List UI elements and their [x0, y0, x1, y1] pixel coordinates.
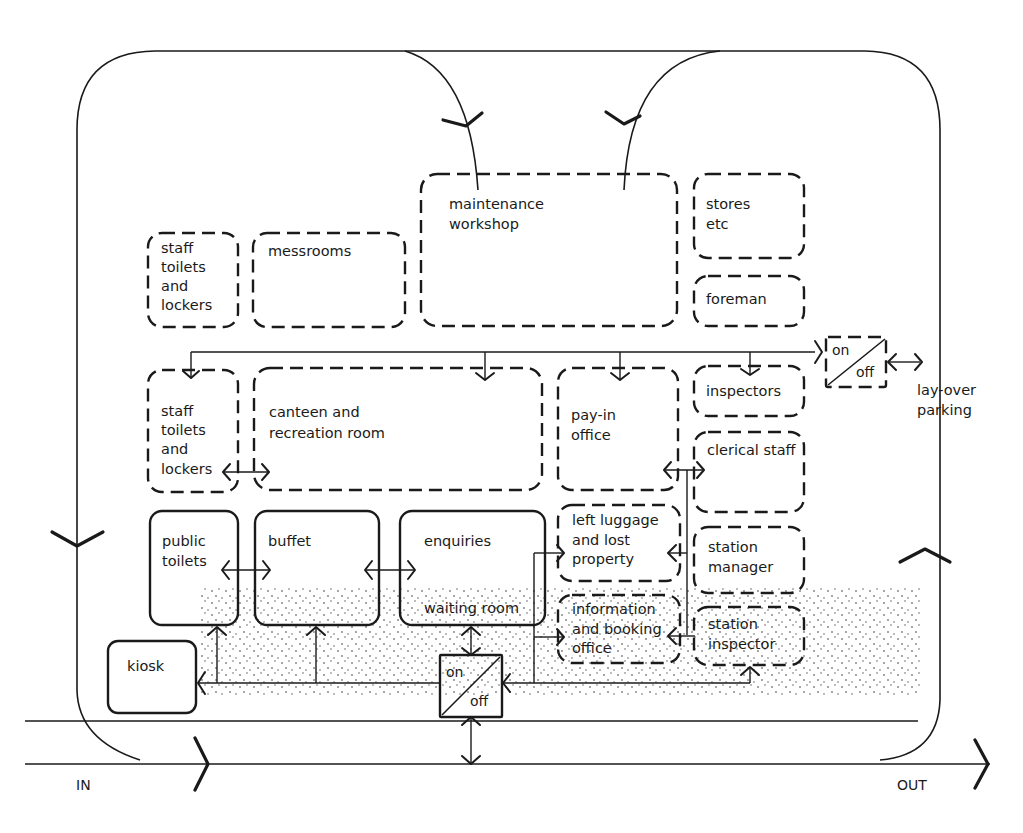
- svg-text:stafftoiletsandlockers: stafftoiletsandlockers: [161, 240, 212, 313]
- arrow-right-icon: [815, 341, 822, 363]
- room-messrooms: messrooms: [253, 233, 405, 327]
- svg-text:on: on: [832, 342, 849, 358]
- svg-text:storesetc: storesetc: [706, 196, 750, 232]
- out-label: OUT: [897, 777, 927, 793]
- staff-on-off-switch: on off: [826, 337, 886, 387]
- svg-text:buffet: buffet: [268, 533, 311, 549]
- room-maintenance-workshop: maintenanceworkshop: [421, 174, 677, 326]
- room-kiosk: kiosk: [108, 641, 196, 713]
- svg-text:enquiries: enquiries: [424, 533, 491, 549]
- svg-text:stationmanager: stationmanager: [708, 539, 773, 575]
- svg-text:on: on: [446, 664, 463, 680]
- svg-text:foreman: foreman: [706, 291, 767, 307]
- svg-text:off: off: [470, 693, 489, 709]
- svg-text:waiting room: waiting room: [424, 600, 519, 616]
- room-stores: storesetc: [694, 174, 804, 258]
- room-canteen: canteen andrecreation room: [254, 368, 542, 490]
- svg-text:inspectors: inspectors: [706, 383, 781, 399]
- room-foreman: foreman: [694, 276, 804, 326]
- svg-text:messrooms: messrooms: [268, 243, 351, 259]
- room-clerical-staff: clerical staff: [694, 432, 804, 512]
- room-pay-in-office: pay-inoffice: [558, 368, 678, 490]
- room-left-luggage: left luggageand lostproperty: [558, 505, 680, 581]
- workshop-route-right: [624, 51, 720, 190]
- svg-text:off: off: [856, 364, 875, 380]
- layover-parking-label: lay-overparking: [917, 382, 976, 418]
- room-station-manager: stationmanager: [694, 527, 804, 593]
- svg-text:left luggageand lostproperty: left luggageand lostproperty: [572, 512, 659, 567]
- svg-text:canteen andrecreation room: canteen andrecreation room: [269, 404, 385, 441]
- svg-text:maintenanceworkshop: maintenanceworkshop: [449, 196, 544, 232]
- direction-chevron-workshop-left: [443, 113, 482, 126]
- svg-text:pay-inoffice: pay-inoffice: [571, 407, 616, 443]
- station-layout-diagram: IN OUT stafftoiletsandlockers messrooms …: [0, 0, 1023, 833]
- svg-text:kiosk: kiosk: [127, 658, 165, 674]
- svg-text:clerical staff: clerical staff: [707, 442, 797, 458]
- svg-text:stafftoiletsandlockers: stafftoiletsandlockers: [161, 403, 212, 477]
- room-staff-toilets-top: stafftoiletsandlockers: [148, 233, 238, 327]
- direction-chevron-right-up: [900, 549, 950, 562]
- in-label: IN: [76, 777, 91, 793]
- svg-text:publictoilets: publictoilets: [162, 533, 207, 569]
